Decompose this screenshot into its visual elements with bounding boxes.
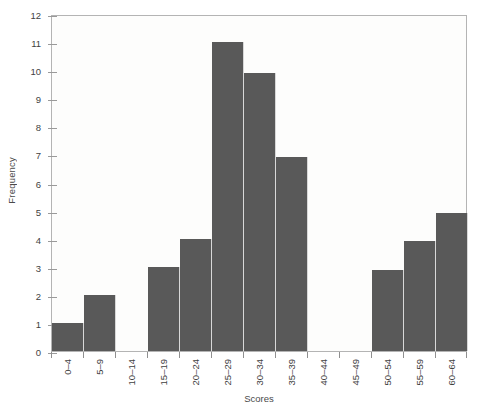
y-tick-label: 11: [31, 38, 41, 49]
x-tick-label: 10–14: [126, 359, 137, 385]
y-axis-tick-labels: 0123456789101112: [22, 0, 44, 360]
y-tick-mark: [48, 297, 57, 298]
x-tick-label: 25–29: [222, 359, 233, 385]
y-tick-mark: [48, 213, 57, 214]
y-tick-label: 5: [36, 206, 41, 217]
x-tick-label: 20–24: [190, 359, 201, 385]
plot-inner: [52, 16, 466, 351]
y-tick-label: 1: [36, 318, 41, 329]
bar: [436, 213, 468, 351]
bar: [180, 239, 212, 351]
y-tick-mark: [48, 156, 57, 157]
x-tick-mark: [435, 352, 436, 358]
x-tick-label: 45–49: [350, 359, 361, 385]
y-tick-mark: [48, 100, 57, 101]
y-tick-label: 7: [36, 150, 41, 161]
y-tick-label: 4: [36, 234, 41, 245]
y-tick-mark: [48, 44, 57, 45]
y-tick-label: 8: [36, 122, 41, 133]
x-tick-mark: [403, 352, 404, 358]
x-tick-mark: [339, 352, 340, 358]
x-tick-label: 0–4: [62, 359, 73, 375]
x-axis-tick-labels: 0–45–910–1415–1920–2425–2930–3435–3940–4…: [51, 359, 467, 393]
x-tick-mark: [243, 352, 244, 358]
y-axis-title-text: Frequency: [6, 157, 17, 204]
x-axis-tick-marks: [51, 352, 467, 359]
x-tick-label: 35–39: [286, 359, 297, 385]
x-tick-label: 55–59: [414, 359, 425, 385]
y-tick-label: 3: [36, 262, 41, 273]
bar: [84, 295, 116, 351]
y-tick-label: 2: [36, 290, 41, 301]
x-axis-title: Scores: [51, 393, 467, 404]
x-tick-mark: [307, 352, 308, 358]
bar: [276, 157, 308, 351]
y-tick-mark: [48, 241, 57, 242]
bar: [244, 73, 276, 351]
y-tick-label: 0: [36, 347, 41, 358]
x-tick-mark: [115, 352, 116, 358]
y-tick-label: 12: [30, 10, 41, 21]
y-tick-mark: [48, 128, 57, 129]
bar: [372, 270, 404, 351]
bar: [404, 241, 436, 351]
x-tick-label: 30–34: [254, 359, 265, 385]
plot-area: [51, 15, 467, 352]
y-tick-mark: [48, 269, 57, 270]
y-tick-label: 9: [36, 94, 41, 105]
y-tick-label: 6: [36, 178, 41, 189]
bar: [52, 323, 84, 351]
y-tick-mark: [48, 185, 57, 186]
x-tick-mark: [466, 352, 467, 358]
bar: [148, 267, 180, 351]
x-tick-mark: [51, 352, 52, 358]
x-tick-mark: [179, 352, 180, 358]
x-tick-mark: [211, 352, 212, 358]
y-tick-label: 10: [30, 66, 41, 77]
x-tick-mark: [275, 352, 276, 358]
x-tick-label: 15–19: [158, 359, 169, 385]
y-tick-mark: [48, 16, 57, 17]
x-tick-label: 60–64: [446, 359, 457, 385]
y-tick-mark: [48, 72, 57, 73]
x-tick-mark: [371, 352, 372, 358]
histogram-figure: Frequency 0123456789101112 0–45–910–1415…: [0, 0, 478, 416]
x-tick-mark: [147, 352, 148, 358]
y-axis-title: Frequency: [0, 0, 22, 360]
bar: [212, 42, 244, 351]
x-tick-label: 40–44: [318, 359, 329, 385]
x-tick-label: 5–9: [94, 359, 105, 375]
x-tick-label: 50–54: [382, 359, 393, 385]
x-tick-mark: [83, 352, 84, 358]
